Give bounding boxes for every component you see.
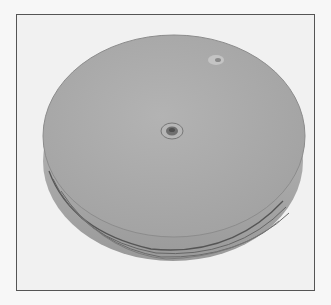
photo-frame: [16, 14, 315, 291]
center-hub-icon: [161, 123, 183, 139]
buffing-wheel-illustration: [17, 15, 315, 291]
surface-mark: [208, 55, 224, 65]
